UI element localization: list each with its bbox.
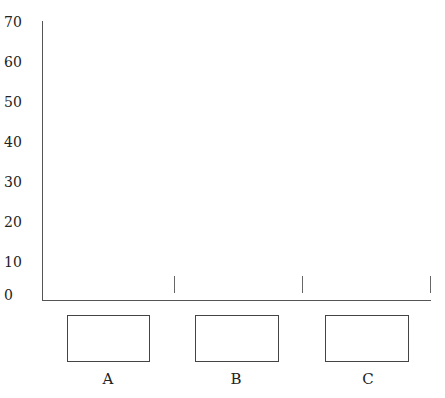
category-box-a	[67, 315, 150, 362]
y-tick-70: 70	[4, 15, 32, 29]
category-box-c	[325, 315, 409, 362]
y-tick-60: 60	[4, 55, 32, 69]
x-axis-line	[42, 300, 431, 301]
y-tick-40: 40	[4, 135, 32, 149]
x-tick-mark-b	[302, 276, 303, 293]
y-axis-line	[42, 21, 43, 301]
x-tick-mark-a	[174, 276, 175, 293]
y-tick-20: 20	[4, 215, 32, 229]
y-tick-30: 30	[4, 175, 32, 189]
category-label-c: C	[348, 370, 388, 388]
category-label-a: A	[88, 370, 128, 388]
y-tick-0: 0	[4, 288, 32, 302]
y-tick-10: 10	[4, 255, 32, 269]
category-box-b	[195, 315, 279, 362]
category-label-b: B	[216, 370, 256, 388]
x-tick-mark-c	[430, 276, 431, 293]
y-tick-50: 50	[4, 95, 32, 109]
